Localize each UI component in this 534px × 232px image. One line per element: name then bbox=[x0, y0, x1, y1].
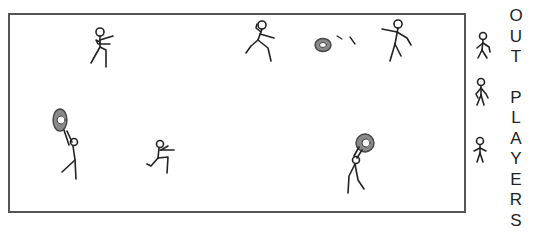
label-letter: Y bbox=[510, 149, 521, 170]
player-dodger-icon bbox=[382, 20, 411, 61]
label-letter: O bbox=[509, 6, 522, 27]
player-runner-icon bbox=[147, 141, 174, 174]
label-letter: L bbox=[511, 108, 520, 129]
out-player-icon bbox=[474, 138, 486, 163]
label-letter: U bbox=[510, 27, 522, 48]
player-runner-icon bbox=[246, 21, 274, 61]
label-letter: R bbox=[510, 190, 522, 211]
court-figures bbox=[0, 0, 534, 231]
label-letter: E bbox=[510, 170, 521, 191]
out-player-icon bbox=[477, 33, 490, 59]
label-letter: P bbox=[510, 88, 521, 109]
label-letter: S bbox=[510, 211, 521, 232]
label-letter: T bbox=[511, 47, 521, 68]
player-catcher-icon bbox=[348, 134, 374, 193]
label-letter: A bbox=[510, 129, 521, 150]
out-player-icon bbox=[476, 79, 488, 106]
player-catcher-icon bbox=[53, 109, 78, 179]
out-players-label: O U T P L A Y E R S bbox=[506, 6, 526, 231]
player-thrower-icon bbox=[91, 28, 113, 67]
ball-in-flight-icon bbox=[315, 36, 355, 52]
